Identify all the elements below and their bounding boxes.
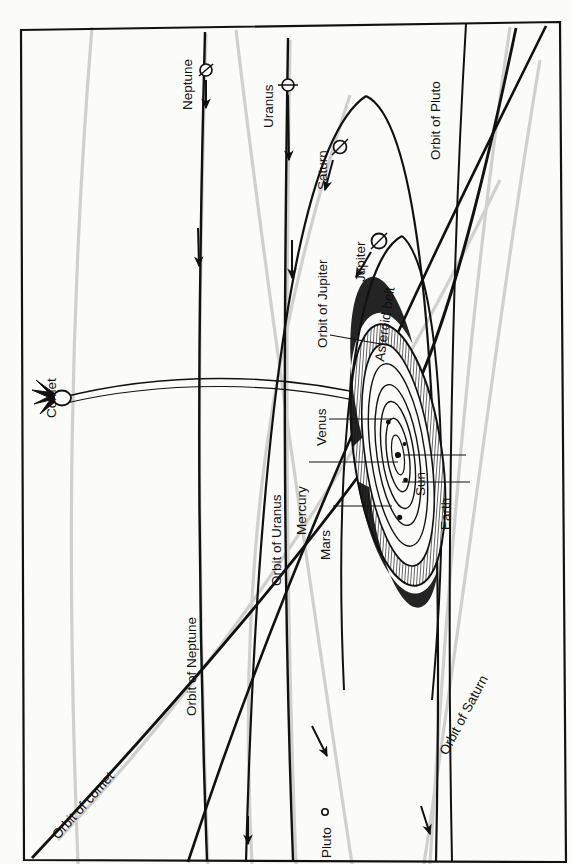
label-neptune: Neptune (180, 59, 195, 110)
label-comet: Comet (44, 378, 59, 418)
label-pluto: Pluto (319, 827, 334, 858)
symbol-uranus (278, 79, 298, 91)
scan-shadow-layer (58, 27, 540, 864)
label-mars: Mars (318, 530, 333, 560)
label-venus: Venus (314, 408, 329, 446)
label-mercury: Mercury (294, 486, 309, 535)
label-jupiter: Jupiter (353, 241, 368, 282)
label-orbit-of-neptune: Orbit of Neptune (184, 617, 199, 716)
label-sun: Sun (413, 472, 428, 496)
label-uranus: Uranus (261, 84, 276, 128)
label-earth: Earth (438, 498, 453, 530)
comet-trajectory-arc-b (62, 386, 386, 408)
label-saturn: Saturn (315, 150, 330, 190)
label-orbit-of-comet: Orbit of comet (49, 769, 117, 842)
label-orbit-of-jupiter: Orbit of Jupiter (315, 259, 330, 348)
figure-canvas: Comet Neptune Uranus Saturn Jupiter Plut… (0, 0, 572, 864)
symbol-jupiter (371, 233, 387, 249)
label-orbit-of-pluto: Orbit of Pluto (428, 81, 443, 160)
solar-system-diagram: Comet Neptune Uranus Saturn Jupiter Plut… (0, 0, 572, 864)
symbol-pluto (322, 809, 328, 815)
symbol-neptune (199, 64, 213, 76)
label-orbit-of-uranus: Orbit of Uranus (269, 494, 284, 586)
orbit-path-neptune (199, 32, 207, 860)
